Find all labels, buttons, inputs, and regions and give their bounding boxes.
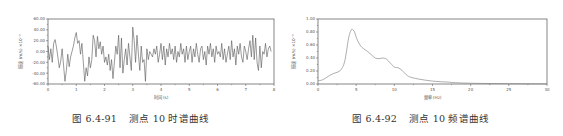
x-tick-label: 0 <box>317 87 320 92</box>
x-tick-label: 25 <box>506 87 512 92</box>
y-tick-label: 0.40 <box>306 55 315 60</box>
y-tick-label: 0.00 <box>36 49 45 54</box>
y-tick-label: -40.00 <box>32 71 45 76</box>
y-axis-label: 振速 (m/s) ×10⁻³ <box>290 34 297 69</box>
x-axis-label: 频率 (Hz) <box>424 94 442 101</box>
y-tick-label: 20.00 <box>34 38 46 43</box>
x-tick-label: 6 <box>216 87 219 92</box>
time-history-chart: 01234567860.0040.0020.000.00-20.00-40.00… <box>0 0 282 105</box>
y-tick-label: 1.00 <box>306 16 315 21</box>
x-tick-label: 4 <box>160 87 163 92</box>
x-tick-label: 8 <box>273 87 276 92</box>
y-tick-label: 60.00 <box>34 16 46 21</box>
x-tick-label: 5 <box>355 87 358 92</box>
caption-text: 测点 10 时谱曲线 <box>129 113 209 124</box>
plot-frame <box>318 19 547 84</box>
x-tick-label: 10 <box>392 87 398 92</box>
caption-spectrum: 图 6.4-92测点 10 频谱曲线 <box>352 111 489 125</box>
x-tick-label: 7 <box>244 87 247 92</box>
y-tick-label: -20.00 <box>32 60 45 65</box>
x-tick-label: 30 <box>544 87 550 92</box>
plot-frame <box>48 19 274 84</box>
y-tick-label: -60.00 <box>32 81 45 86</box>
caption-text: 测点 10 频谱曲线 <box>409 113 489 124</box>
data-line <box>318 29 547 84</box>
data-line <box>48 27 271 81</box>
y-tick-label: 0.00 <box>306 81 315 86</box>
y-tick-label: 0.60 <box>306 42 315 47</box>
caption-time-history: 图 6.4-91测点 10 时谱曲线 <box>72 111 209 125</box>
y-tick-label: 0.80 <box>306 29 315 34</box>
x-tick-label: 15 <box>430 87 436 92</box>
x-tick-label: 2 <box>103 87 106 92</box>
x-tick-label: 1 <box>75 87 78 92</box>
y-tick-label: 0.20 <box>306 68 315 73</box>
x-tick-label: 5 <box>188 87 191 92</box>
spectrum-chart: 0510152025301.000.800.600.400.200.00频率 (… <box>282 0 563 105</box>
figure-time-history: 01234567860.0040.0020.000.00-20.00-40.00… <box>0 0 282 105</box>
x-tick-label: 0 <box>47 87 50 92</box>
caption-number: 图 6.4-91 <box>72 113 117 124</box>
y-axis-label: 振速 (m/s) ×10⁻³ <box>17 34 24 69</box>
x-tick-label: 20 <box>468 87 474 92</box>
x-axis-label: 时间 (s) <box>154 94 169 101</box>
y-tick-label: 40.00 <box>34 27 46 32</box>
caption-number: 图 6.4-92 <box>352 113 397 124</box>
x-tick-label: 3 <box>131 87 134 92</box>
figure-spectrum: 0510152025301.000.800.600.400.200.00频率 (… <box>282 0 563 105</box>
